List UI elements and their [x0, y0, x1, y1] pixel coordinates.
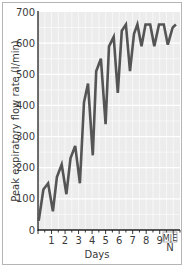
x-axis-title: Days — [85, 249, 110, 260]
x-tick-label: 7 — [129, 235, 135, 246]
y-axis-title: Peak expiratory flow rate (l/min) — [10, 40, 21, 202]
x-axis-ticks: 123456789 — [38, 230, 180, 246]
marker-label-n: N — [166, 242, 173, 253]
pefr-line-chart: 0100200300400500600700 123456789 Peak ex… — [0, 0, 185, 270]
x-tick-label: 3 — [75, 235, 81, 246]
y-tick-label: 0 — [29, 225, 35, 236]
x-tick-label: 8 — [143, 235, 149, 246]
x-tick-label: 5 — [102, 235, 108, 246]
y-tick-label: 700 — [16, 7, 35, 18]
x-tick-label: 6 — [116, 235, 122, 246]
x-tick-label: 2 — [62, 235, 68, 246]
x-tick-label: 1 — [48, 235, 54, 246]
x-tick-label: 4 — [89, 235, 95, 246]
